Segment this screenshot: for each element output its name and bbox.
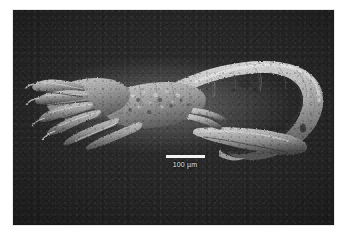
specimen-vector <box>13 10 334 225</box>
sem-micrograph-image: 100 µm <box>13 10 334 225</box>
specimen-body <box>13 10 334 225</box>
figure-page: 100 µm <box>0 0 350 237</box>
